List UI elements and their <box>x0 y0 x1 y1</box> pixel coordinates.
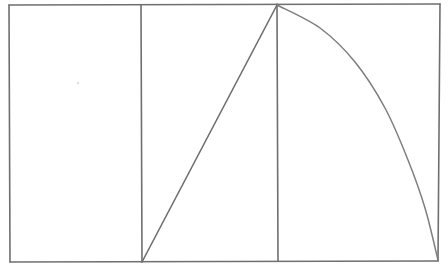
diagonal-hypotenuse <box>142 5 277 262</box>
scan-speck <box>77 82 79 84</box>
rectangle-bottom-edge <box>10 261 438 262</box>
vertical-divider-left <box>141 5 142 262</box>
rectangle-top-edge <box>9 4 440 5</box>
figure-canvas: Geometric construction: rectangle divide… <box>0 0 448 267</box>
outer-rectangle <box>9 4 440 262</box>
rectangle-right-edge <box>438 4 440 261</box>
vertical-divider-right <box>277 4 278 261</box>
quarter-arc <box>277 5 438 260</box>
rectangle-left-edge <box>9 5 10 262</box>
figure-drawing <box>0 0 448 267</box>
